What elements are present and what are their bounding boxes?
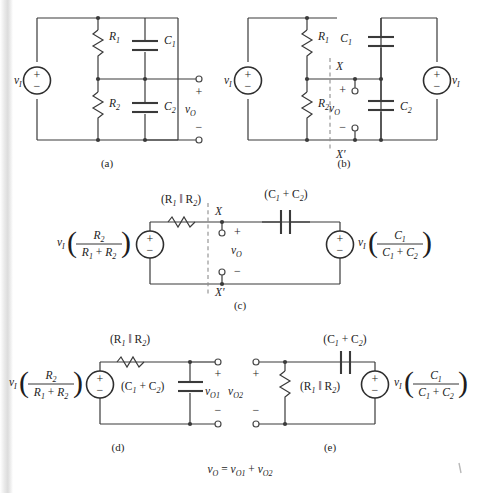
- svg-text:(: (: [368, 225, 378, 259]
- panel-a-output-terminal-plus[interactable]: [196, 76, 202, 82]
- panel-e-shunt-resistor: [280, 371, 290, 398]
- svg-text:−: −: [147, 243, 154, 257]
- panel-d-caption: (d): [112, 441, 125, 454]
- svg-text:vI: vI: [9, 376, 17, 391]
- panel-c-output-label: vO: [231, 244, 242, 259]
- panel-e-output-label: vO2: [228, 385, 243, 400]
- panel-c-minus-sign: −: [234, 264, 241, 278]
- svg-text:vI: vI: [394, 376, 402, 391]
- panel-b-output-label: vO: [329, 102, 340, 117]
- panel-b-labels: vI vI R1 R2 C1 C2 X X′ + vO − (b): [224, 30, 460, 170]
- svg-text:): ): [458, 365, 468, 399]
- panel-b-output-terminal-minus[interactable]: [352, 125, 358, 131]
- svg-text:): ): [73, 365, 83, 399]
- panel-a-minus-sign: −: [196, 120, 203, 134]
- svg-text:R2: R2: [92, 229, 104, 244]
- panel-e-caption: (e): [324, 441, 337, 454]
- panel-b-R1-label: R1: [317, 30, 329, 45]
- panel-a-C1-label: C1: [164, 34, 176, 49]
- svg-text:R1 + R2: R1 + R2: [81, 246, 116, 261]
- panel-b-caption: (b): [338, 157, 351, 170]
- svg-text:(: (: [19, 365, 29, 399]
- panel-e-output-terminal-plus[interactable]: [253, 359, 259, 365]
- circuit-figure-canvas: + − vI R1 R2 C: [0, 0, 481, 493]
- panel-d-shunt-capacitor: [178, 382, 203, 391]
- panel-d-source-symbol: + −: [87, 371, 114, 398]
- panel-c-series-resistor-label: (R1 ‖ R2): [161, 193, 201, 208]
- panel-e-output-terminal-minus[interactable]: [253, 421, 259, 427]
- panel-a-output-label: vO: [185, 103, 196, 118]
- scan-artifact: [459, 463, 461, 473]
- panel-d-plus-sign: +: [215, 367, 222, 381]
- panel-d-circuit: + −: [87, 357, 222, 427]
- panel-a-source-label: vI: [14, 74, 22, 89]
- panel-a-plus-sign: +: [196, 85, 203, 99]
- panel-e-source-expression: vI ( C1 C1 + C2 ): [394, 365, 468, 401]
- panel-b-plus-sign: +: [339, 83, 346, 97]
- svg-text:C1 + C2: C1 + C2: [382, 246, 418, 261]
- panel-d-minus-sign: −: [215, 403, 222, 417]
- panel-c-right-source-expression: vI ( C1 C1 + C2 ): [358, 225, 432, 261]
- panel-e-minus-sign: −: [253, 403, 260, 417]
- panel-b-source-right-label: vI: [452, 74, 460, 89]
- svg-text:−: −: [97, 383, 104, 397]
- panel-b-minus-sign: −: [339, 120, 346, 134]
- panel-a-R2-label: R2: [108, 97, 120, 112]
- panel-e-plus-sign: +: [253, 367, 260, 381]
- panel-b-output-terminal-plus[interactable]: [352, 88, 358, 94]
- panel-b-source-left-symbol: + −: [235, 67, 262, 94]
- panel-a-R1-label: R1: [108, 30, 120, 45]
- panel-c-labels: vI ( R2 R1 + R2 ) vI ( C1 C1 + C2 ) (R1 …: [57, 188, 432, 312]
- figure-caption-equation: vO = vO1 + vO2: [207, 463, 272, 478]
- panel-c-series-capacitor-label: (C1 + C2): [264, 188, 307, 203]
- panel-d-output-label: vO1: [205, 385, 220, 400]
- svg-text:(: (: [67, 225, 77, 259]
- panel-d-source-expression: vI ( R2 R1 + R2 ): [9, 365, 83, 401]
- panel-c-output-terminal-minus[interactable]: [219, 269, 225, 275]
- panel-b-cut-top-label: X: [335, 60, 344, 72]
- panel-c-output-terminal-plus[interactable]: [219, 230, 225, 236]
- svg-text:(: (: [404, 365, 414, 399]
- panel-a-labels: vI R1 R2 C1 C2 + vO − (a): [14, 30, 203, 170]
- panel-c-cut-top-label: X: [214, 205, 223, 217]
- panel-a-C2-label: C2: [164, 100, 176, 115]
- svg-text:R2: R2: [44, 369, 56, 384]
- svg-text:−: −: [434, 79, 441, 93]
- panel-d-output-terminal-minus[interactable]: [215, 421, 221, 427]
- svg-text:R1 + R2: R1 + R2: [33, 386, 68, 401]
- panel-d-series-resistor-label: (R1 ‖ R2): [110, 333, 150, 348]
- panel-a-source-symbol: + −: [24, 67, 51, 94]
- svg-text:−: −: [245, 79, 252, 93]
- svg-text:C1: C1: [430, 369, 442, 384]
- svg-text:vI: vI: [358, 236, 366, 251]
- svg-text:): ): [121, 225, 131, 259]
- panel-d-shunt-capacitor-label: (C1 + C2): [121, 380, 164, 395]
- panel-a-resistor-R1: [93, 30, 103, 62]
- svg-text:C1 + C2: C1 + C2: [418, 386, 454, 401]
- panel-c-left-source-expression: vI ( R2 R1 + R2 ): [57, 225, 131, 261]
- panel-a-output-terminal-minus[interactable]: [196, 137, 202, 143]
- panel-e-labels: vI ( C1 C1 + C2 ) (C1 + C2) (R1 ‖ R2) + …: [228, 333, 468, 454]
- panel-e-series-capacitor-label: (C1 + C2): [323, 333, 366, 348]
- svg-text:vO = vO1 + vO2: vO = vO1 + vO2: [207, 463, 272, 478]
- svg-text:−: −: [34, 79, 41, 93]
- svg-text:C1: C1: [394, 229, 406, 244]
- panel-e-shunt-resistor-label: (R1 ‖ R2): [300, 380, 340, 395]
- panel-c-cut-bottom-label: X′: [214, 286, 225, 298]
- panel-b-C1-label: C1: [340, 32, 352, 47]
- panel-d-output-terminal-plus[interactable]: [215, 359, 221, 365]
- panel-b-C2-label: C2: [400, 100, 412, 115]
- panel-b-source-left-label: vI: [224, 74, 232, 89]
- panel-a-capacitor-C2: [132, 103, 158, 112]
- panel-c-circuit: + − + −: [137, 203, 354, 295]
- svg-text:−: −: [337, 243, 344, 257]
- panel-c-plus-sign: +: [234, 225, 241, 239]
- panel-c-caption: (c): [234, 299, 247, 312]
- svg-text:−: −: [372, 383, 379, 397]
- panel-c-source-left-symbol: + −: [137, 231, 164, 258]
- svg-text:): ): [422, 225, 432, 259]
- panel-e-source-symbol: + −: [362, 371, 389, 398]
- panel-a-caption: (a): [101, 157, 114, 170]
- panel-b-source-right-symbol: + −: [424, 67, 451, 94]
- panel-c-source-right-symbol: + −: [327, 231, 354, 258]
